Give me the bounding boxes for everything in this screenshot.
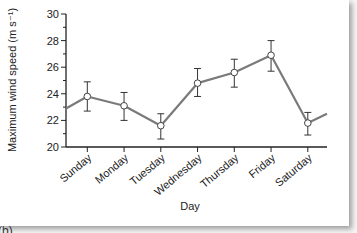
data-point-marker (194, 80, 201, 87)
y-tick-label: 24 (47, 88, 59, 100)
x-axis-title: Day (180, 200, 200, 212)
x-tick-label: Thursday (198, 151, 241, 190)
y-tick-label: 20 (47, 141, 59, 153)
line-chart: 202224262830SundayMondayTuesdayWednesday… (0, 0, 357, 233)
data-point-marker (305, 120, 312, 127)
data-line (66, 55, 327, 125)
data-point-marker (158, 122, 165, 129)
x-tick-label: Friday (246, 151, 278, 180)
x-tick-label: Saturday (273, 151, 315, 189)
data-point-marker (268, 52, 275, 59)
data-point-marker (231, 69, 238, 76)
y-tick-label: 22 (47, 114, 59, 126)
x-tick-label: Monday (93, 151, 131, 186)
panel-label: (b) (0, 224, 13, 233)
x-tick-label: Sunday (57, 151, 94, 184)
y-tick-label: 26 (47, 61, 59, 73)
y-tick-label: 28 (47, 35, 59, 47)
y-axis-title: Maximum wind speed (m s⁻¹) (6, 8, 18, 152)
data-point-marker (84, 93, 91, 100)
y-tick-label: 30 (47, 8, 59, 20)
data-point-marker (121, 102, 128, 109)
chart-card: 202224262830SundayMondayTuesdayWednesday… (0, 0, 349, 226)
